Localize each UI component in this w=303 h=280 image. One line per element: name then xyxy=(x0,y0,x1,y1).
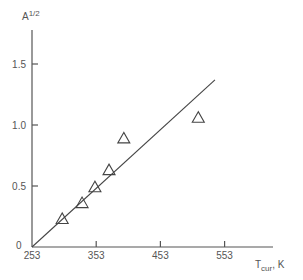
data-point-triangle xyxy=(118,132,130,143)
data-point-triangle xyxy=(192,112,204,123)
x-axis-label-unit: , K xyxy=(272,259,285,270)
y-tick-label: 0.5 xyxy=(12,181,26,192)
data-point-triangle xyxy=(56,213,68,224)
chart: 2533534535530.51.01.5 0 A1/2 Tcur, K xyxy=(0,0,303,280)
tick-labels: 2533534535530.51.01.5 xyxy=(12,59,233,261)
x-tick-label: 453 xyxy=(152,250,169,261)
fit-line xyxy=(32,80,215,247)
x-tick-label: 353 xyxy=(88,250,105,261)
y-axis-label: A1/2 xyxy=(22,9,40,22)
x-axis-label-subscript: cur xyxy=(261,264,272,273)
x-tick-label: 253 xyxy=(24,250,41,261)
data-point-triangle xyxy=(76,197,88,208)
ticks xyxy=(32,64,225,247)
x-axis-label: Tcur, K xyxy=(255,259,285,273)
y-axis-label-superscript: 1/2 xyxy=(29,9,41,18)
y-tick-label: 1.5 xyxy=(12,59,26,70)
y-tick-label: 1.0 xyxy=(12,120,26,131)
x-tick-label: 553 xyxy=(216,250,233,261)
data-markers xyxy=(56,112,204,224)
origin-label: 0 xyxy=(16,240,22,251)
